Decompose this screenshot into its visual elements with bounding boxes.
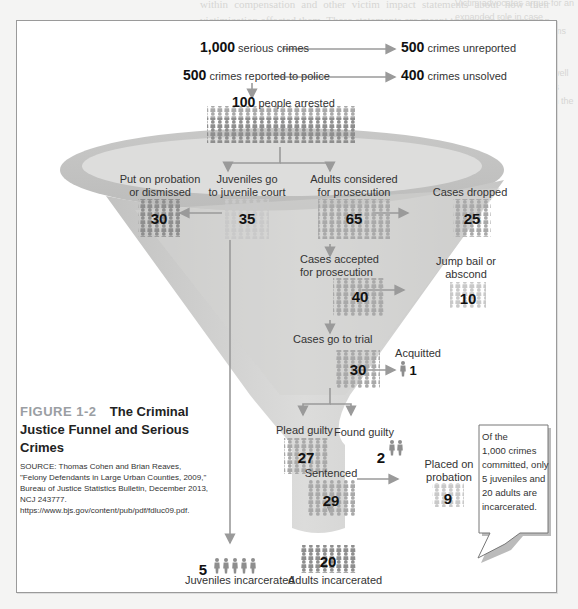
go-to-trial-count: 30 <box>338 361 378 378</box>
placed-on-probation-label: Placed onprobation <box>420 458 478 484</box>
cases-dropped-count: 25 <box>452 210 492 227</box>
cases-dropped-label: Cases dropped <box>425 186 515 199</box>
cases-accepted-count: 40 <box>340 288 380 305</box>
crimes-unsolved-label: 400 crimes unsolved <box>401 69 507 83</box>
juvenile-court-label: Juveniles goto juvenile court <box>197 173 297 199</box>
go-to-trial-label: Cases go to trial <box>293 333 371 346</box>
adults-incarcerated-label: Adults incarcerated <box>288 574 382 587</box>
plead-guilty-label: Plead guilty <box>276 424 333 437</box>
acquitted-label: Acquitted <box>388 347 448 360</box>
figure-caption: FIGURE 1-2 The Criminal Justice Funnel a… <box>20 402 210 516</box>
figure-number: FIGURE 1-2 <box>20 404 97 419</box>
callout-note: Of the 1,000 crimes committed, only 5 ju… <box>482 430 552 514</box>
adults-considered-count: 65 <box>334 210 374 227</box>
juveniles-incarcerated-count: 5 <box>196 561 210 578</box>
callout-line: Of the <box>482 430 552 444</box>
figure-source: SOURCE: Thomas Cohen and Brian Reaves, "… <box>20 461 210 516</box>
juvenile-court-count: 35 <box>227 210 267 227</box>
sentenced-label: Sentenced <box>300 467 362 480</box>
jump-bail-count: 10 <box>448 290 488 307</box>
people-arrested-label: 100 people arrested <box>232 96 335 110</box>
crimes-unreported-label: 500 crimes unreported <box>401 41 516 55</box>
probation-dismissed-count: 30 <box>139 210 179 227</box>
found-guilty-label: Found guilty <box>334 426 394 439</box>
acquitted-count: 1 <box>406 363 420 378</box>
funnel-diagram-graphics <box>0 0 578 609</box>
sentenced-count: 29 <box>311 492 351 509</box>
found-guilty-count: 2 <box>374 449 388 466</box>
crimes-reported-label: 500 crimes reported to police <box>183 69 330 83</box>
callout-line: incarcerated. <box>482 500 552 514</box>
callout-line: 1,000 crimes <box>482 444 552 458</box>
cases-accepted-label: Cases acceptedfor prosecution <box>300 253 370 279</box>
adults-incarcerated-count: 20 <box>306 553 350 570</box>
jump-bail-label: Jump bail orabscond <box>430 255 502 281</box>
plead-guilty-count: 27 <box>286 449 326 466</box>
callout-line: committed, only <box>482 458 552 472</box>
callout-line: 20 adults are <box>482 486 552 500</box>
adults-considered-label: Adults consideredfor prosecution <box>300 173 408 199</box>
probation-dismissed-label: Put on probationor dismissed <box>110 173 210 199</box>
placed-on-probation-count: 9 <box>438 490 458 507</box>
callout-line: 5 juveniles and <box>482 472 552 486</box>
serious-crimes-label: 1,000 serious crimes <box>200 41 309 55</box>
